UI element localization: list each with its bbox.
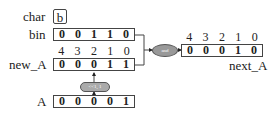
a-label: A [37, 95, 46, 109]
new-a-label: new_A [9, 58, 47, 72]
new-a-bit: 1 [118, 57, 134, 72]
index: 0 [119, 45, 135, 57]
next-a-indices: 4 3 2 1 0 [181, 31, 263, 43]
bin-bit: 0 [70, 27, 86, 42]
bin-bit: 0 [54, 27, 70, 42]
index: 0 [247, 31, 263, 43]
next-a-register: 0 0 0 1 0 [181, 44, 263, 57]
bin-bit: 1 [86, 27, 102, 42]
char-value-box: b [53, 9, 67, 24]
new-a-indices: 4 3 2 1 0 [53, 45, 135, 57]
a-bit: 0 [54, 94, 70, 109]
new-a-bit: 0 [70, 57, 86, 72]
new-a-bit: 1 [102, 57, 118, 72]
index: 4 [181, 31, 197, 43]
shift-operation: <<1, 1 [80, 82, 110, 92]
index: 3 [198, 31, 214, 43]
new-a-bit: 0 [86, 57, 102, 72]
new-a-register: 0 0 0 1 1 [53, 58, 135, 71]
new-a-bit: 0 [54, 57, 70, 72]
a-bit: 1 [118, 94, 134, 109]
a-bit: 0 [86, 94, 102, 109]
a-register: 0 0 0 0 1 [53, 95, 135, 108]
next-a-bit: 0 [198, 43, 214, 58]
next-a-bit: 0 [246, 43, 262, 58]
char-label: char [23, 10, 45, 24]
index: 1 [102, 45, 118, 57]
a-bit: 0 [102, 94, 118, 109]
index: 3 [70, 45, 86, 57]
a-bit: 0 [70, 94, 86, 109]
bin-bit: 1 [102, 27, 118, 42]
index: 1 [230, 31, 246, 43]
next-a-bit: 0 [214, 43, 230, 58]
bin-bit: 0 [118, 27, 134, 42]
and-operation: and [152, 44, 178, 57]
index: 2 [86, 45, 102, 57]
bin-register: 0 0 1 1 0 [53, 28, 135, 41]
next-a-label: next_A [229, 59, 267, 73]
next-a-bit: 0 [182, 43, 198, 58]
bin-label: bin [29, 28, 46, 42]
next-a-bit: 1 [230, 43, 246, 58]
index: 2 [214, 31, 230, 43]
index: 4 [53, 45, 69, 57]
